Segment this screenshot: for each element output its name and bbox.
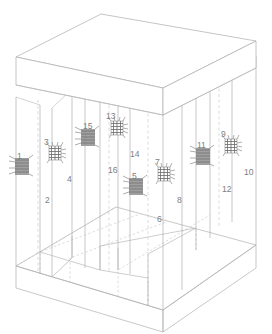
sensor-11-core [196, 148, 210, 165]
sensor-3-grid[interactable] [46, 142, 66, 163]
top-slab [16, 14, 256, 115]
sensor-label-10: 10 [244, 168, 253, 177]
sensor-label-8: 8 [177, 196, 182, 205]
bottom-slab-front-face [16, 266, 163, 332]
sensor-label-1: 1 [17, 152, 22, 161]
sensor-label-5: 5 [132, 172, 137, 181]
sensor-label-2: 2 [45, 196, 50, 205]
bottom-slab-right-face [163, 245, 256, 332]
sensor-label-3: 3 [44, 138, 49, 147]
sensor-label-13: 13 [106, 112, 115, 121]
sensor-label-12: 12 [222, 185, 231, 194]
column-2-base [52, 258, 72, 277]
sensor-15-core [81, 129, 95, 146]
sensor-label-6: 6 [157, 215, 162, 224]
diagram-canvas: 1 2 3 4 5 6 7 8 9 10 11 12 13 14 15 16 [0, 0, 272, 334]
sensor-label-14: 14 [130, 150, 139, 159]
sensor-label-7: 7 [155, 158, 160, 167]
sensor-label-15: 15 [83, 122, 92, 131]
sensor-label-11: 11 [197, 141, 206, 150]
sensor-label-4: 4 [67, 175, 72, 184]
sensor-label-9: 9 [221, 130, 226, 139]
hidden-plan-a [40, 214, 140, 274]
floor-rib-b [100, 270, 148, 278]
col1-top [16, 97, 40, 105]
isometric-block-svg [0, 0, 272, 334]
sensor-label-16: 16 [108, 166, 117, 175]
bottom-slab-hidden-lines [16, 207, 210, 306]
